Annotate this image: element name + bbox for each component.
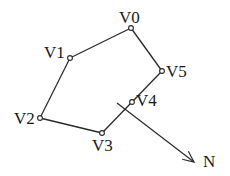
normal-label: N (203, 152, 215, 171)
normal-arrow-line (117, 103, 194, 162)
polygon-normal-diagram: N V0V1V2V3V4V5 (0, 0, 230, 176)
vertex-v1 (68, 56, 73, 61)
vertex-label-v0: V0 (119, 8, 140, 27)
vertex-label-v3: V3 (92, 136, 113, 155)
edge-v3-v4 (102, 102, 132, 133)
edge-v1-v2 (40, 58, 70, 118)
edge-v0-v1 (70, 28, 131, 58)
normal-vector: N (117, 103, 215, 171)
vertex-v2 (38, 116, 43, 121)
vertex-v5 (160, 69, 165, 74)
vertex-label-v5: V5 (166, 62, 187, 81)
vertex-v3 (100, 131, 105, 136)
vertex-label-v4: V4 (136, 91, 157, 110)
edge-v5-v0 (131, 28, 162, 71)
edge-v2-v3 (40, 118, 102, 133)
vertex-v4 (130, 100, 135, 105)
vertex-label-v2: V2 (14, 109, 35, 128)
vertex-label-v1: V1 (44, 43, 65, 62)
